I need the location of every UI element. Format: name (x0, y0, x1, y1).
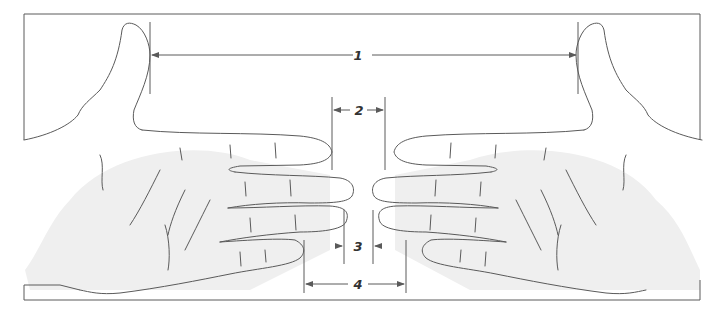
label-1: 1 (353, 48, 362, 63)
measurement-1 (150, 22, 578, 94)
measurement-3 (338, 210, 379, 264)
label-3: 3 (353, 239, 362, 254)
hand-shading (25, 150, 700, 290)
hand-measurement-diagram: 1 2 3 4 (0, 0, 726, 318)
label-2: 2 (354, 103, 363, 118)
label-4: 4 (352, 277, 362, 292)
